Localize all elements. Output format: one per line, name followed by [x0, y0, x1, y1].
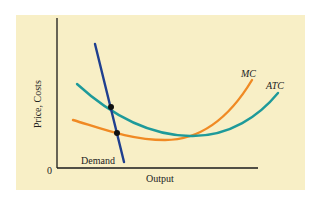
intersection-demand-mc [114, 130, 120, 136]
y-axis-label: Price, Costs [32, 80, 43, 128]
origin-label: 0 [47, 165, 52, 176]
cost-curves-chart: MC ATC Demand 0 Output Price, Costs [0, 0, 320, 201]
demand-label: Demand [81, 155, 115, 166]
x-axis-label: Output [146, 173, 174, 184]
atc-label: ATC [265, 80, 284, 91]
mc-label: MC [240, 68, 256, 79]
intersection-demand-atc [108, 104, 114, 110]
